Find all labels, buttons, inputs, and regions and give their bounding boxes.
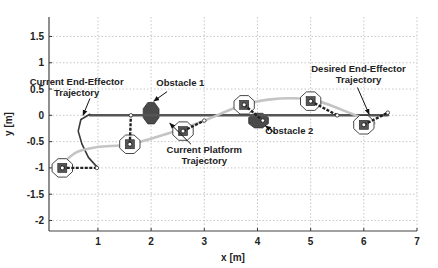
annotation-text: Obstacle 1 (156, 77, 205, 88)
robot-pose (173, 119, 206, 141)
y-tick-label: 0 (38, 110, 44, 121)
robot-joint (242, 103, 246, 107)
robot-joint (362, 123, 366, 127)
x-tick-label: 6 (361, 236, 367, 247)
x-axis-label: x [m] (221, 252, 245, 263)
y-tick-label: 0.5 (30, 84, 44, 95)
end-effector (335, 114, 339, 118)
y-tick-label: -2 (35, 215, 44, 226)
x-tick-label: 2 (148, 236, 154, 247)
annotation-desired-ee: Desired End-EffectorTrajectory (311, 63, 406, 114)
x-tick-label: 1 (95, 236, 101, 247)
annotation-text: Desired End-Effector (311, 63, 406, 74)
robot-joint (181, 129, 185, 133)
x-tick-label: 7 (414, 236, 420, 247)
annotation-arrow (154, 92, 167, 101)
robot-joint (309, 99, 313, 103)
robot-pose (120, 114, 140, 154)
y-tick-label: -1.5 (27, 189, 45, 200)
annotation-text: Current Platform (167, 144, 242, 155)
y-tick-label: 1 (38, 57, 44, 68)
annotation-text: Trajectory (182, 155, 228, 166)
trajectory-chart: Current End-EffectorTrajectoryObstacle 1… (0, 0, 438, 268)
y-axis-label: y [m] (3, 112, 14, 136)
y-tick-label: -0.5 (27, 136, 45, 147)
end-effector (386, 111, 390, 115)
end-effector (95, 166, 99, 170)
end-effector (202, 119, 206, 123)
robot-joint (60, 166, 64, 170)
robot-pose (301, 92, 340, 117)
annotation-text: Trajectory (54, 87, 100, 98)
series-current-end-effector-trajectory (78, 114, 97, 167)
obstacle-obstacle-1 (143, 103, 159, 124)
x-tick-label: 5 (308, 236, 314, 247)
robot-joint (128, 142, 132, 146)
x-tick-label: 4 (255, 236, 261, 247)
annotation-text: Trajectory (336, 74, 382, 85)
end-effector (261, 119, 265, 123)
annotation-arrow (357, 87, 369, 114)
y-tick-label: -1 (35, 162, 44, 173)
annotation-arrow (83, 98, 90, 115)
y-tick-label: 1.5 (30, 31, 44, 42)
end-effector (129, 114, 133, 118)
annotation-obstacle2: Obstacle 2 (265, 125, 313, 136)
x-tick-label: 3 (202, 236, 208, 247)
